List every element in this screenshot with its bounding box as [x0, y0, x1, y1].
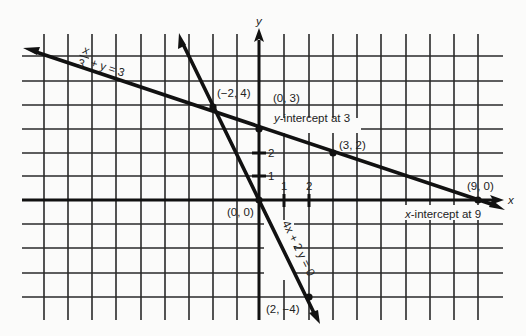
label-point-0-0: (0, 0)	[227, 206, 254, 218]
graph-canvas: y x 1 2 1 2 (−2, 4) (0, 3) y-intercept a…	[0, 0, 526, 336]
y-axis-label: y	[255, 15, 263, 27]
x-tick-label-2: 2	[306, 180, 312, 192]
point-9-0	[474, 196, 481, 203]
x-tick-label-1: 1	[281, 180, 287, 192]
y-axis-arrow-icon	[254, 28, 264, 42]
point-0-3	[255, 125, 262, 132]
x-axis-label: x	[507, 194, 515, 206]
equation-label-line1: x 3 + y = 3	[76, 43, 130, 83]
svg-text:x: x	[81, 43, 92, 57]
label-point-3-2: (3, 2)	[339, 139, 366, 151]
point-0-0	[255, 196, 262, 203]
label-y-intercept: y-intercept at 3	[273, 112, 350, 124]
label-point-0-3: (0, 3)	[273, 92, 300, 104]
label-point-2-minus4: (2, −4)	[266, 303, 300, 315]
coordinate-graph: y x 1 2 1 2 (−2, 4) (0, 3) y-intercept a…	[0, 0, 526, 336]
label-x-intercept: x-intercept at 9	[404, 208, 481, 220]
y-tick-label-2: 2	[268, 147, 274, 159]
point-3-2	[329, 149, 336, 156]
point-minus2-4	[209, 103, 216, 110]
y-tick-label-1: 1	[268, 170, 274, 182]
line2-bottom-arrow-icon	[309, 310, 320, 324]
point-2-minus4	[305, 293, 312, 300]
label-point-minus2-4: (−2, 4)	[217, 87, 251, 99]
label-point-9-0: (9, 0)	[467, 180, 494, 192]
